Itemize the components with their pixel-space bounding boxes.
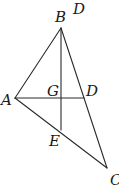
- label-d: D: [85, 82, 98, 100]
- label-g: G: [47, 82, 59, 100]
- label-b: B: [54, 8, 66, 26]
- triangle-diagram: B D A G D E C: [0, 0, 119, 191]
- label-c: C: [110, 171, 119, 189]
- label-a: A: [0, 91, 12, 109]
- label-e: E: [48, 132, 60, 150]
- label-stray-d: D: [72, 0, 85, 18]
